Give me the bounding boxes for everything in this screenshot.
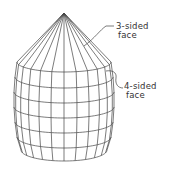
mesh-edge: [64, 13, 88, 71]
mesh-edge: [52, 13, 64, 72]
mesh-curve: [16, 65, 23, 153]
mesh-edge: [23, 13, 64, 67]
mesh-edge: [41, 13, 65, 71]
mesh-curve: [106, 71, 123, 88]
mesh-edge: [64, 13, 109, 65]
mesh-edge: [64, 13, 76, 72]
mesh-diagram: 3-sided face 4-sided face: [0, 0, 181, 171]
mesh-edge: [19, 13, 64, 65]
label-4-sided-face: 4-sided face: [124, 82, 157, 100]
mesh-edge: [64, 13, 97, 69]
mesh-edge: [31, 13, 64, 69]
mesh-curve: [106, 65, 113, 153]
mesh-curve: [84, 26, 114, 46]
mesh-edge: [64, 13, 105, 67]
mesh-curve: [101, 67, 107, 156]
mesh-edge: [17, 13, 64, 62]
mesh-curve: [21, 67, 27, 156]
label-3-sided-face: 3-sided face: [116, 22, 149, 40]
mesh-edge: [64, 13, 111, 62]
